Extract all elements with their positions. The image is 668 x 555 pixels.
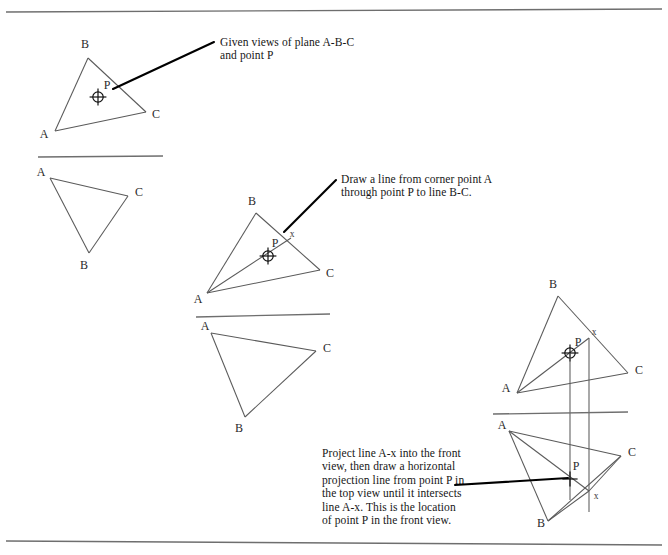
drawing-page: Given views of plane A-B-C and point P D…	[0, 0, 668, 555]
annotation-given-views: Given views of plane A-B-C and point P	[220, 36, 354, 63]
figure-1-top-view-point-p-marker	[90, 89, 107, 106]
figure-2-top-view-point-p-marker	[260, 248, 277, 265]
figure-3-fold-line	[493, 412, 628, 414]
figure-1-front-view-triangle-edge	[50, 178, 89, 253]
figure-2-front-view-triangle-edge	[211, 333, 245, 417]
figure-1-front-view-triangle-edge	[50, 178, 128, 196]
figure-1-front-view-triangle-edge	[89, 196, 128, 253]
page-border-top	[6, 9, 662, 12]
figure-1-top-view-triangle-edge	[55, 112, 146, 131]
figure-2-top-view-triangle-edge	[256, 213, 320, 270]
annotation-draw-line-leader-line	[284, 180, 336, 232]
figure-3-front-view-line-B-x-front	[548, 491, 589, 521]
figure-3-top-view-triangle-edge	[517, 373, 628, 393]
figure-3-top-view-triangle-edge	[517, 296, 558, 393]
annotation-project-line-leader-line	[455, 478, 568, 485]
figure-3-top-view-line-A-x	[517, 338, 589, 393]
figure-3-top-view-triangle-edge	[558, 296, 628, 373]
annotation-draw-line: Draw a line from corner point A through …	[341, 173, 492, 200]
annotation-project-line: Project line A-x into the front view, th…	[322, 447, 464, 527]
figure-3-front-view-triangle-edge	[509, 431, 548, 521]
figure-1-fold-line	[38, 156, 163, 157]
figure-2-top-view-triangle-edge	[207, 213, 256, 293]
figure-2-fold-line	[196, 314, 330, 317]
figure-1-top-view-triangle-edge	[55, 58, 88, 131]
annotation-given-views-leader-line	[113, 42, 214, 89]
figure-2-front-view-triangle-edge	[245, 351, 316, 417]
figure-2-front-view-triangle-edge	[211, 333, 316, 351]
figure-3-front-view-triangle-edge	[548, 456, 621, 521]
page-border-bottom	[6, 541, 662, 545]
figure-3-front-view-line-C-x-front	[589, 456, 621, 491]
figure-1-top-view-triangle-edge	[88, 58, 146, 112]
